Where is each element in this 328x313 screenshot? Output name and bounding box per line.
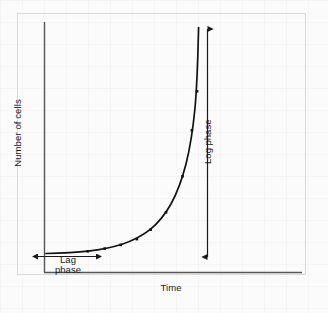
log-phase-label: Log phase bbox=[203, 107, 213, 177]
y-axis-label: Number of cells bbox=[13, 88, 23, 178]
lag-phase-label-line2: phase bbox=[42, 265, 94, 275]
growth-curve-line bbox=[46, 28, 199, 254]
lag-phase-label: Lag phase bbox=[42, 255, 94, 274]
growth-curve-figure: Number of cells Time Lag phase Log phase bbox=[0, 0, 328, 313]
data-point-markers bbox=[86, 90, 198, 253]
x-axis-label: Time bbox=[126, 283, 216, 293]
